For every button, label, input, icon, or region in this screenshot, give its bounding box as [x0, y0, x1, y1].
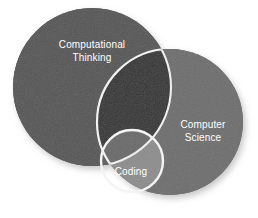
venn-label-coding: Coding — [115, 166, 148, 177]
venn-label-computational-thinking-line1: Computational — [59, 39, 125, 50]
venn-label-computational-thinking-line2: Thinking — [73, 52, 112, 63]
venn-diagram-figure: Computational Thinking Computer Science … — [0, 0, 258, 218]
venn-diagram-canvas: Computational Thinking Computer Science … — [0, 0, 258, 218]
venn-label-computer-science-line2: Science — [185, 132, 222, 143]
venn-label-computer-science-line1: Computer — [180, 119, 226, 130]
